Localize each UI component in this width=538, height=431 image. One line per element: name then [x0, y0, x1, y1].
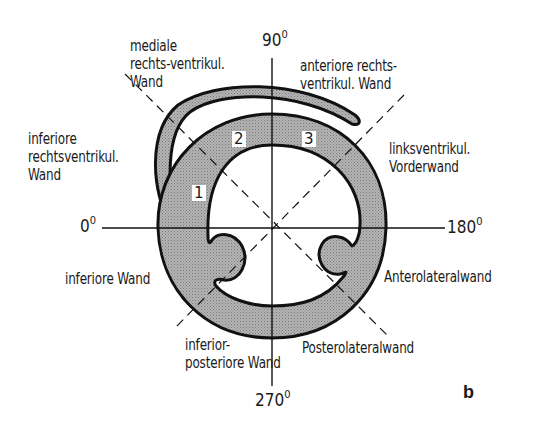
axis-label-90: 900 [262, 28, 288, 50]
label-lv-anterior-wall: linksventrikul. Vorderwand [389, 140, 470, 176]
panel-letter: b [463, 382, 474, 403]
left-ventricle-cavity [208, 145, 360, 306]
segment-1-marker: 1 [192, 185, 206, 201]
label-inferior-wall: inferiore Wand [65, 270, 150, 288]
segment-3-marker: 3 [302, 131, 316, 147]
label-medial-rv-wall: mediale rechts-ventrikul. Wand [130, 37, 225, 91]
axis-value-270: 270 [255, 390, 284, 410]
label-anterior-rv-wall: anteriore rechts- ventrikul. Wand [300, 57, 397, 93]
label-posterolateral-wall: Posterolateralwand [302, 339, 414, 357]
degree-symbol: 0 [281, 28, 287, 41]
label-inferoposterior-wall: inferior- posteriore Wand [185, 336, 281, 372]
axis-value-0: 0 [80, 216, 90, 236]
axis-label-270: 2700 [255, 388, 291, 410]
segment-2-marker: 2 [232, 131, 246, 147]
heart-cross-section-diagram: 900 00 1800 2700 mediale rechts-ventriku… [0, 0, 538, 431]
axis-value-180: 180 [447, 217, 476, 237]
axis-label-180: 1800 [447, 215, 483, 237]
degree-symbol: 0 [476, 215, 482, 228]
degree-symbol: 0 [284, 388, 290, 401]
axis-value-90: 90 [262, 30, 281, 50]
degree-symbol: 0 [90, 214, 96, 227]
axis-label-0: 00 [80, 214, 96, 236]
label-anterolateral-wall: Anterolateralwand [384, 268, 492, 286]
label-inferior-rv-wall: inferiore rechtsventrikul. Wand [28, 130, 119, 184]
